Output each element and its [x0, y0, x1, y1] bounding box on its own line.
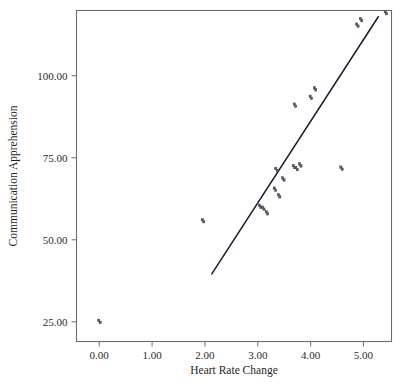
figure-background [0, 0, 409, 386]
x-tick-label: 2.00 [195, 349, 215, 361]
y-tick-label: 100.00 [37, 70, 68, 82]
y-axis-title: Communication Apprehension [7, 105, 20, 246]
y-tick-label: 50.00 [43, 234, 68, 246]
y-tick-label: 75.00 [43, 152, 68, 164]
x-tick-label: 3.00 [248, 349, 268, 361]
y-tick-label: 25.00 [43, 316, 68, 328]
x-tick-label: 5.00 [354, 349, 374, 361]
x-tick-label: 4.00 [301, 349, 321, 361]
scatterplot-figure: 25.0050.0075.00100.00 0.001.002.003.004.… [0, 0, 409, 386]
x-axis-title: Heart Rate Change [190, 364, 278, 377]
x-tick-label: 0.00 [90, 349, 110, 361]
plot-canvas: 25.0050.0075.00100.00 0.001.002.003.004.… [0, 0, 409, 386]
x-tick-label: 1.00 [142, 349, 162, 361]
